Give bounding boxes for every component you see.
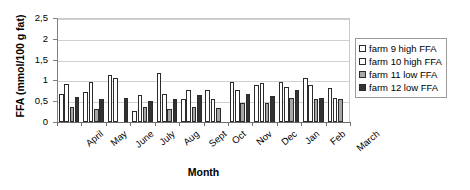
legend-label: farm 12 low FFA <box>369 81 438 94</box>
bar-group <box>204 18 228 122</box>
bar <box>59 94 64 122</box>
bar <box>143 107 148 122</box>
legend: farm 9 high FFAfarm 10 high FFAfarm 11 l… <box>355 38 447 98</box>
x-axis-tick-mark <box>57 122 58 126</box>
bar <box>181 99 186 122</box>
bar <box>289 98 294 122</box>
x-axis-tick-mark <box>252 122 253 126</box>
bar <box>138 95 143 122</box>
y-axis-tick-label: 1,5 <box>14 55 48 64</box>
bar <box>167 109 172 122</box>
x-axis-tick-mark <box>204 122 205 126</box>
bar <box>303 78 308 122</box>
bar <box>230 82 235 122</box>
x-axis-tick-mark <box>130 122 131 126</box>
bar <box>254 85 259 122</box>
legend-swatch-icon <box>359 84 366 91</box>
bar-group <box>179 18 203 122</box>
y-axis-tick-label: 0,5 <box>14 96 48 105</box>
bar <box>64 84 69 122</box>
bar-group <box>252 18 276 122</box>
legend-swatch-icon <box>359 71 366 78</box>
y-axis-tick-label: 2,5 <box>14 13 48 22</box>
bar <box>246 94 251 122</box>
bar <box>83 92 88 122</box>
x-axis-tick-mark <box>179 122 180 126</box>
legend-swatch-icon <box>359 58 366 65</box>
bar-group <box>326 18 350 122</box>
legend-label: farm 10 high FFA <box>369 55 442 68</box>
bar <box>240 103 245 122</box>
legend-label: farm 9 high FFA <box>369 42 437 55</box>
x-axis-tick-label: Dec <box>279 128 299 147</box>
legend-item: farm 9 high FFA <box>359 42 442 55</box>
bar <box>162 94 167 122</box>
x-axis-tick-label: July <box>157 128 177 147</box>
x-axis-tick-label: April <box>84 128 106 149</box>
legend-item: farm 10 high FFA <box>359 55 442 68</box>
bar <box>148 101 153 122</box>
x-axis-tick-label: Oct <box>229 128 247 146</box>
bar-group <box>81 18 105 122</box>
bar <box>265 103 270 122</box>
bar <box>270 96 275 122</box>
x-axis-tick-mark <box>277 122 278 126</box>
bar <box>333 98 338 122</box>
bar <box>197 95 202 122</box>
legend-item: farm 12 low FFA <box>359 81 442 94</box>
x-axis-tick-label: Sept <box>206 128 228 149</box>
bar <box>94 109 99 122</box>
bar <box>260 83 265 122</box>
y-axis-tick-label: 0 <box>14 117 48 126</box>
bar <box>113 78 118 123</box>
x-axis-title: Month <box>57 166 350 178</box>
bar <box>328 88 333 122</box>
legend-swatch-icon <box>359 45 366 52</box>
x-axis-tick-mark <box>350 122 351 126</box>
bar <box>192 107 197 122</box>
x-axis-tick-mark <box>155 122 156 126</box>
x-axis-tick-mark <box>326 122 327 126</box>
bar <box>319 98 324 122</box>
bar <box>173 99 178 122</box>
bar <box>284 87 289 122</box>
bar <box>338 99 343 122</box>
x-axis-tick-label: Nov <box>254 128 274 147</box>
bar <box>295 90 300 122</box>
bar <box>108 75 113 122</box>
x-axis-tick-mark <box>301 122 302 126</box>
bar <box>308 85 313 122</box>
x-axis-tick-label: June <box>133 128 156 150</box>
bar <box>186 90 191 122</box>
bar <box>211 99 216 122</box>
bar-group <box>130 18 154 122</box>
y-axis-tick-label: 2 <box>14 34 48 43</box>
x-axis-tick-label: May <box>108 128 129 148</box>
bar <box>99 99 104 122</box>
bar <box>157 73 162 122</box>
bar <box>75 97 80 122</box>
bar <box>216 108 221 122</box>
x-axis-tick-mark <box>228 122 229 126</box>
bar <box>70 107 75 122</box>
bar-group <box>155 18 179 122</box>
bar-group <box>106 18 130 122</box>
bar-group <box>228 18 252 122</box>
bar-group <box>277 18 301 122</box>
bar <box>279 82 284 122</box>
bar-group <box>301 18 325 122</box>
bar <box>314 99 319 122</box>
bar-series-container <box>57 18 350 122</box>
y-axis-tick-label: 1 <box>14 75 48 84</box>
bar-group <box>57 18 81 122</box>
bar <box>205 90 210 122</box>
x-axis-tick-label: Jan <box>303 128 322 146</box>
legend-label: farm 11 low FFA <box>369 68 437 81</box>
x-axis-tick-mark <box>81 122 82 126</box>
bar <box>132 111 137 122</box>
x-axis-tick-label: Aug <box>181 128 201 147</box>
bar <box>124 98 129 122</box>
x-axis-tick-label: Feb <box>327 128 347 147</box>
ffa-by-month-bar-chart: FFA (mmol/100 g fat) 00,511,522,5 AprilM… <box>0 0 470 190</box>
x-axis-tick-mark <box>106 122 107 126</box>
